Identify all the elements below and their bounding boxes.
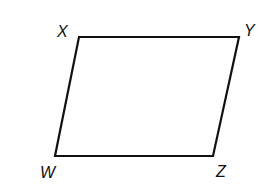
parallelogram-diagram: X Y Z W bbox=[0, 0, 263, 195]
vertex-label-x: X bbox=[56, 23, 69, 40]
vertex-label-z: Z bbox=[215, 163, 227, 180]
parallelogram-wxyz bbox=[55, 37, 239, 156]
vertex-label-w: W bbox=[40, 164, 57, 181]
vertex-label-y: Y bbox=[244, 22, 256, 39]
